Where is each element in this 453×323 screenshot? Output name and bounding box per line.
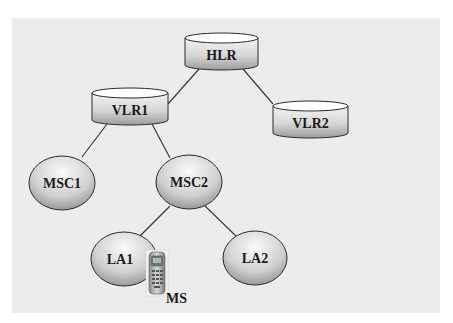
cylinder-top	[273, 101, 348, 111]
mobile-phone-icon	[146, 250, 168, 296]
cylinder-top	[92, 88, 168, 98]
ms-label: MS	[166, 291, 187, 306]
vlr2-label: VLR2	[292, 116, 329, 131]
vlr2-node[interactable]: VLR2	[273, 101, 348, 138]
vlr1-label: VLR1	[112, 103, 149, 118]
cylinder-top	[185, 33, 258, 43]
la1-label: LA1	[107, 252, 133, 267]
msc2-label: MSC2	[170, 175, 208, 190]
msc2-node[interactable]: MSC2	[156, 155, 222, 209]
la2-node[interactable]: LA2	[223, 231, 287, 285]
hlr-node[interactable]: HLR	[185, 33, 258, 70]
msc1-node[interactable]: MSC1	[29, 156, 95, 210]
vlr1-node[interactable]: VLR1	[92, 88, 168, 125]
diagram-canvas: HLR VLR1 VLR2 MSC1 MSC2 LA1	[0, 0, 453, 323]
network-hierarchy-diagram: HLR VLR1 VLR2 MSC1 MSC2 LA1	[0, 0, 453, 323]
hlr-label: HLR	[206, 48, 237, 63]
la2-label: LA2	[242, 251, 268, 266]
msc1-label: MSC1	[43, 176, 81, 191]
